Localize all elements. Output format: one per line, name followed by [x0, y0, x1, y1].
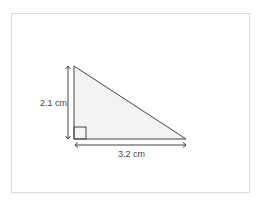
height-label: 2.1 cm	[40, 98, 67, 108]
triangle-diagram	[0, 0, 256, 204]
base-label: 3.2 cm	[118, 149, 145, 159]
base-dimension-arrow	[75, 143, 186, 148]
right-triangle	[74, 66, 186, 139]
